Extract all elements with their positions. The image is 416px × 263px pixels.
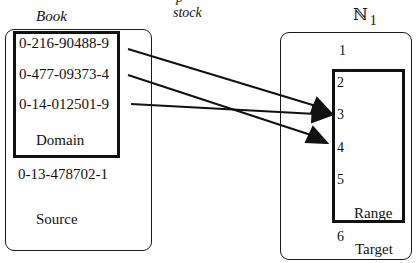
arrow-0-216-to-3 [128, 49, 331, 113]
arrow-0-14-to-3 [131, 104, 331, 122]
mapping-arrows [0, 0, 416, 263]
